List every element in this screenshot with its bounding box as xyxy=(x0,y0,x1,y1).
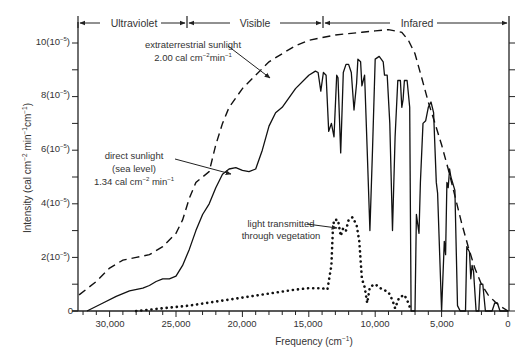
x-tick-25000: 25,000 xyxy=(161,318,190,329)
x-tick-5000: 5,000 xyxy=(430,318,454,329)
spectral-regions: Ultraviolet Visible Infared xyxy=(78,16,507,29)
x-tick-20000: 20,000 xyxy=(227,318,256,329)
x-axis-title: Frequency (cm−1) xyxy=(275,335,352,347)
ann-ds-arrow xyxy=(175,159,231,174)
ann-ds-line2: (sea level) xyxy=(112,163,156,174)
y-tick-6: 6(10−5) xyxy=(41,143,70,154)
y-tick-4: 4(10−5) xyxy=(41,197,70,208)
x-tick-30000: 30,000 xyxy=(95,318,124,329)
annotation-direct-sunlight: direct sunlight (sea level) 1.34 cal cm−… xyxy=(94,150,231,187)
region-infrared: Infared xyxy=(401,17,434,29)
solar-spectrum-chart: 0 2(10−5) 4(10−5) 6(10−5) 8(10−5) 10(10−… xyxy=(0,0,532,363)
y-tick-labels: 0 2(10−5) 4(10−5) 6(10−5) 8(10−5) 10(10−… xyxy=(36,36,73,316)
y-tick-2: 2(10−5) xyxy=(41,251,70,262)
ann-ds-line1: direct sunlight xyxy=(105,150,164,161)
ann-veg-line2: through vegetation xyxy=(242,230,321,241)
x-tick-15000: 15,000 xyxy=(293,318,322,329)
region-ultraviolet: Ultraviolet xyxy=(111,17,158,29)
x-tick-labels: 30,000 25,000 20,000 15,000 10,000 5,000… xyxy=(95,318,510,329)
ann-ds-line3: 1.34 cal cm−2 min−1 xyxy=(94,176,175,187)
x-ticks xyxy=(83,311,508,317)
y-tick-8: 8(10−5) xyxy=(41,89,70,100)
y-ticks xyxy=(72,43,78,311)
annotation-extraterrestrial: extraterrestrial sunlight 2.00 cal cm−2m… xyxy=(145,39,270,78)
ann-veg-line1: light transmitted xyxy=(247,218,314,229)
y-axis-title: Intensity (cal cm−2 min−1cm−1) xyxy=(21,103,33,233)
x-tick-0: 0 xyxy=(505,318,510,329)
ann-et-line2: 2.00 cal cm−2min−1 xyxy=(154,52,232,63)
ann-et-arrow xyxy=(228,46,270,78)
right-ticks xyxy=(509,43,515,311)
y-tick-10: 10(10−5) xyxy=(36,36,70,47)
ann-et-line1: extraterrestrial sunlight xyxy=(145,39,241,50)
x-tick-10000: 10,000 xyxy=(360,318,389,329)
y-tick-0: 0 xyxy=(68,305,73,316)
annotation-vegetation: light transmitted through vegetation xyxy=(242,218,337,241)
region-visible: Visible xyxy=(240,17,271,29)
